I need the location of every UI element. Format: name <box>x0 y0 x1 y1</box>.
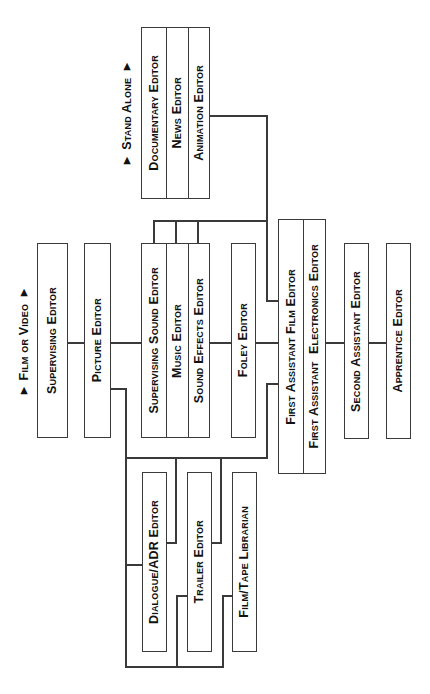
node-apprentice-editor: Apprentice Editor <box>386 243 411 439</box>
connector-line <box>153 220 155 243</box>
cell: Supervising Editor <box>38 244 67 437</box>
connector-line <box>210 342 231 344</box>
connector-line <box>197 220 199 243</box>
cell: Apprentice Editor <box>387 244 410 438</box>
connector-line <box>326 342 344 344</box>
cell: Picture Editor <box>85 244 110 437</box>
connector-line <box>125 564 142 566</box>
node-second-assistant-editor: Second Assistant Editor <box>344 243 369 439</box>
connector-line <box>212 542 222 544</box>
connector-line <box>210 115 268 117</box>
connector-line <box>222 595 232 597</box>
connector-line <box>266 300 278 302</box>
connector-line <box>266 115 268 301</box>
node-picture-editor: Picture Editor <box>84 243 111 438</box>
first-assistant-group: First Assistant Film Editor First Assist… <box>278 219 326 474</box>
connector-line <box>175 220 177 243</box>
connector-line <box>175 457 177 543</box>
node-supervising-editor: Supervising Editor <box>37 243 68 438</box>
connector-line <box>176 595 187 597</box>
cell: Dialogue/ADR Editor <box>143 473 166 651</box>
connector-line <box>153 220 267 222</box>
sound-group: Supervising Sound Editor Music Editor So… <box>141 243 210 438</box>
connector-line <box>125 457 268 459</box>
cell: Second Assistant Editor <box>345 244 368 438</box>
group-label-stand-alone: ▼ Stand Alone ▼ <box>120 55 134 173</box>
node-foley-editor: Foley Editor <box>231 243 256 438</box>
node-music-editor: Music Editor <box>166 244 188 437</box>
node-first-assistant-film-editor: First Assistant Film Editor <box>279 220 303 473</box>
connector-line <box>266 383 268 458</box>
cell: Film/Tape Librarian <box>233 473 256 651</box>
org-chart: ▼ Stand Alone ▼ ▼ Film or Video ▼ Docume… <box>0 0 430 694</box>
cell: Trailer Editor <box>188 473 211 651</box>
connector-line <box>68 342 84 344</box>
node-film-tape-librarian: Film/Tape Librarian <box>232 472 257 652</box>
node-sound-effects-editor: Sound Effects Editor <box>188 244 209 437</box>
node-news-editor: News Editor <box>166 28 188 198</box>
node-dialogue-adr-editor: Dialogue/ADR Editor <box>142 472 167 652</box>
film-or-video-label: ▼ Film or Video ▼ <box>18 286 31 398</box>
cell: Foley Editor <box>232 244 255 437</box>
node-supervising-sound-editor: Supervising Sound Editor <box>142 244 166 437</box>
connector-line <box>222 595 224 668</box>
connector-line <box>256 342 278 344</box>
node-animation-editor: Animation Editor <box>188 28 209 198</box>
node-documentary-editor: Documentary Editor <box>142 28 166 198</box>
connector-line <box>266 383 278 385</box>
stand-alone-label: ▼ Stand Alone ▼ <box>121 60 134 168</box>
connector-line <box>125 388 127 668</box>
node-trailer-editor: Trailer Editor <box>187 472 212 652</box>
stand-alone-group: Documentary Editor News Editor Animation… <box>141 27 210 199</box>
connector-line <box>369 342 386 344</box>
node-first-assistant-electronics-editor: First Assistant Electronics Editor <box>303 220 325 473</box>
connector-line <box>176 595 178 668</box>
connector-line <box>111 342 141 344</box>
connector-line <box>220 457 222 543</box>
group-label-film-or-video: ▼ Film or Video ▼ <box>17 280 31 404</box>
connector-line <box>167 542 177 544</box>
connector-line <box>125 666 224 668</box>
